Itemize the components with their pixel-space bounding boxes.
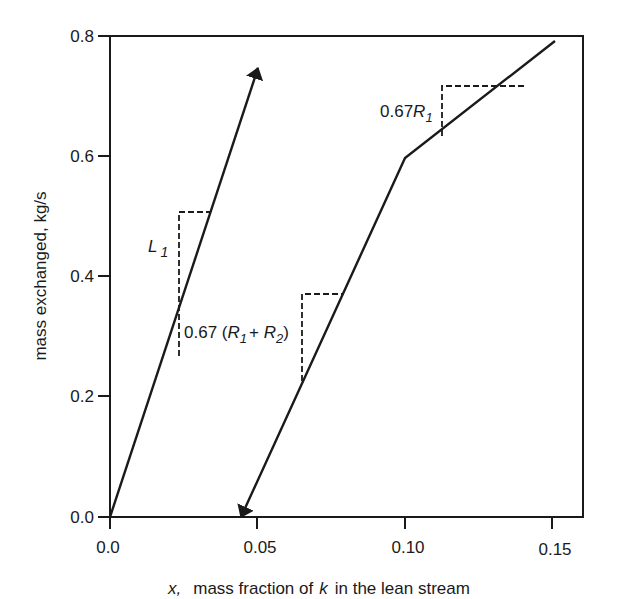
annotation-l1: L1 — [148, 237, 168, 260]
r12-close: ) — [283, 323, 289, 342]
annotation-r1-r2: 0.67 (R1+ R2) — [184, 323, 289, 346]
r1-sub: 1 — [425, 110, 432, 125]
x-axis-var: x, — [167, 579, 181, 598]
slope-triangle-r1 — [442, 86, 524, 136]
x-tick-label: 0.05 — [243, 538, 276, 557]
mass-exchange-composite-chart: 0.8 0.6 0.4 0.2 0.0 0.0 0.05 0.10 0.15 m… — [0, 0, 617, 599]
r12-r2: R — [264, 323, 276, 342]
plot-frame — [110, 36, 583, 517]
y-tick-label: 0.8 — [70, 27, 94, 46]
x-axis-text2: in the lean stream — [335, 579, 470, 598]
x-tick-label: 0.10 — [391, 538, 424, 557]
l1-sub: 1 — [160, 244, 168, 260]
r1-prefix: 0.67 — [380, 102, 413, 121]
x-tick-label: 0.15 — [538, 540, 571, 559]
y-tick-label: 0.0 — [70, 508, 94, 527]
r12-prefix: 0.67 ( — [184, 323, 228, 342]
l1-main: L — [148, 237, 157, 256]
y-axis-title: mass exchanged, kg/s — [31, 191, 50, 360]
x-axis — [110, 517, 552, 529]
r12-sub1: 1 — [240, 331, 247, 346]
r12-r1: R — [227, 323, 239, 342]
x-axis-title: x,mass fraction ofkin the lean stream — [167, 579, 470, 598]
y-tick-label: 0.4 — [70, 267, 94, 286]
y-tick-label: 0.2 — [70, 387, 94, 406]
y-tick-label: 0.6 — [70, 147, 94, 166]
annotation-r1: 0.67R1 — [380, 102, 433, 125]
lean-composite-line — [110, 68, 258, 517]
r12-plus: + — [249, 323, 264, 342]
x-axis-text1: mass fraction of — [193, 579, 313, 598]
r1-r: R — [413, 102, 425, 121]
x-tick-label: 0.0 — [96, 538, 120, 557]
x-axis-k: k — [319, 579, 329, 598]
y-axis — [98, 36, 110, 517]
